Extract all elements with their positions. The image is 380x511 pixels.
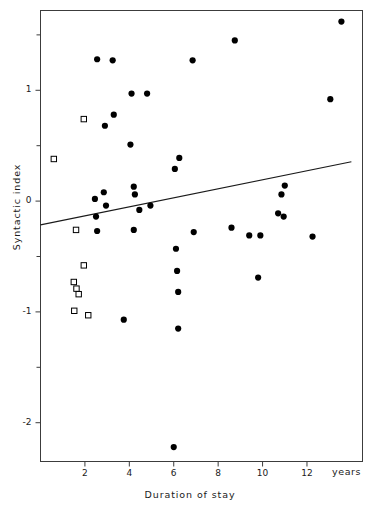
y-tick-label--2: -2: [6, 417, 32, 427]
scatter-plot-figure: 24681012 10-1-2 years Duration of stay S…: [0, 0, 380, 511]
x-tick-label-12: 12: [292, 468, 322, 478]
data-point-circle: [275, 210, 281, 216]
x-tick-label-10: 10: [248, 468, 278, 478]
data-point-circle: [175, 325, 181, 331]
data-point-circle: [257, 232, 263, 238]
data-point-circle: [94, 56, 100, 62]
data-point-circle: [131, 227, 137, 233]
data-point-square: [71, 279, 76, 284]
data-point-circle: [173, 246, 179, 252]
data-point-circle: [110, 57, 116, 63]
data-point-circle: [102, 123, 108, 129]
data-point-circle: [93, 214, 99, 220]
data-point-circle: [190, 57, 196, 63]
x-tick-label-6: 6: [159, 468, 189, 478]
data-point-circle: [92, 196, 98, 202]
data-point-square: [86, 313, 91, 318]
data-point-circle: [327, 96, 333, 102]
data-point-circle: [111, 112, 117, 118]
x-axis-title: Duration of stay: [0, 489, 380, 500]
data-point-circle: [191, 229, 197, 235]
data-point-square: [51, 156, 56, 161]
data-point-circle: [175, 289, 181, 295]
data-point-circle: [128, 91, 134, 97]
plot-canvas: [0, 0, 380, 511]
y-tick-label--1: -1: [6, 306, 32, 316]
data-point-circle: [144, 91, 150, 97]
y-axis-title-wrapper: Syntactic index: [11, 137, 25, 277]
data-point-circle: [228, 225, 234, 231]
x-tick-label-8: 8: [203, 468, 233, 478]
data-point-square: [74, 286, 79, 291]
data-point-circle: [101, 189, 107, 195]
data-point-circle: [121, 317, 127, 323]
data-point-circle: [309, 233, 315, 239]
data-point-circle: [94, 228, 100, 234]
data-point-circle: [132, 191, 138, 197]
x-tick-label-2: 2: [70, 468, 100, 478]
data-point-square: [81, 263, 86, 268]
data-point-circle: [147, 202, 153, 208]
data-point-circle: [131, 184, 137, 190]
data-point-square: [81, 116, 86, 121]
y-axis-title: Syntactic index: [11, 137, 22, 277]
data-point-circle: [338, 18, 344, 24]
data-point-circle: [278, 191, 284, 197]
data-point-circle: [136, 207, 142, 213]
x-tick-label-4: 4: [114, 468, 144, 478]
data-point-circle: [281, 214, 287, 220]
data-point-circle: [171, 444, 177, 450]
data-point-circle: [255, 274, 261, 280]
data-point-circle: [103, 202, 109, 208]
data-point-square: [72, 308, 77, 313]
x-axis-ticks: [85, 462, 307, 467]
data-point-circle: [282, 182, 288, 188]
y-tick-label-1: 1: [6, 84, 32, 94]
data-point-circle: [246, 232, 252, 238]
x-axis-unit-label: years: [332, 466, 361, 477]
data-point-circle: [174, 268, 180, 274]
data-point-square: [76, 291, 81, 296]
y-axis-ticks: [36, 35, 41, 423]
data-point-circle: [232, 37, 238, 43]
data-point-circle: [172, 166, 178, 172]
data-point-circle: [127, 141, 133, 147]
data-point-square: [73, 227, 78, 232]
data-point-circle: [176, 155, 182, 161]
